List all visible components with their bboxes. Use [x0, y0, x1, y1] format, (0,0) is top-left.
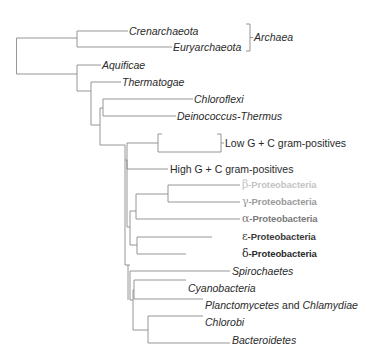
taxon-deinococcus-thermus: Deinococcus-Thermus [177, 110, 282, 122]
taxon-planctomycetes-and-chlamydiae: Planctomycetes and Chlamydiae [205, 299, 358, 311]
taxon-spirochaetes: Spirochaetes [232, 265, 293, 277]
taxon-alpha-proteobacteria: α-Proteobacteria [242, 213, 318, 225]
taxon-cyanobacteria: Cyanobacteria [188, 282, 256, 294]
group-archaea: Archaea [254, 31, 293, 43]
taxon-gamma-proteobacteria: γ-Proteobacteria [242, 196, 317, 208]
taxon-crenarchaeota: Crenarchaeota [129, 25, 198, 37]
taxon-aquificae: Aquificae [102, 59, 145, 71]
taxon-bacteroidetes: Bacteroidetes [232, 334, 296, 346]
taxon-epsilon-proteobacteria: ε-Proteobacteria [242, 231, 316, 243]
taxon-delta-proteobacteria: δ-Proteobacteria [242, 248, 317, 260]
taxon-high-gc-gram-positives: High G + C gram-positives [170, 163, 293, 175]
taxon-chloroflexi: Chloroflexi [194, 93, 244, 105]
taxon-euryarchaeota: Euryarchaeota [173, 41, 241, 53]
taxon-low-gc-gram-positives: Low G + C gram-positives [225, 137, 346, 149]
taxon-beta-proteobacteria: β-Proteobacteria [242, 179, 316, 191]
taxon-chlorobi: Chlorobi [205, 316, 244, 328]
taxon-thermatogae: Thermatogae [122, 76, 184, 88]
